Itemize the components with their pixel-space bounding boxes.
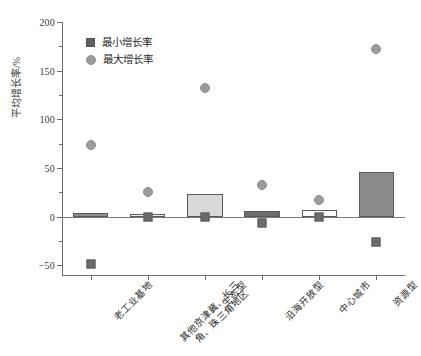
legend-item-max: 最大增长率 bbox=[86, 51, 153, 68]
bar bbox=[359, 172, 394, 217]
x-tick-label-group: 老工业基地其他京津冀、长三角、珠三角地区生态型沿海开放型中心城市资源型 bbox=[62, 275, 405, 356]
y-tick-label: 150 bbox=[0, 65, 55, 76]
y-tick-major bbox=[57, 22, 62, 23]
legend-label-min: 最小增长率 bbox=[102, 34, 152, 51]
max-growth-marker bbox=[257, 180, 267, 190]
bar bbox=[244, 211, 279, 217]
y-tick-major bbox=[57, 71, 62, 72]
y-tick-label: −50 bbox=[0, 260, 55, 271]
x-tick-label: 中心城市 bbox=[337, 279, 374, 316]
y-tick-minor bbox=[59, 95, 62, 96]
x-tick-label: 老工业基地 bbox=[111, 279, 155, 323]
bar bbox=[73, 213, 108, 217]
y-axis-line bbox=[62, 22, 63, 275]
y-tick-major bbox=[57, 168, 62, 169]
min-growth-marker bbox=[143, 212, 152, 221]
y-tick-major bbox=[57, 265, 62, 266]
y-tick-minor bbox=[59, 46, 62, 47]
x-tick-label: 沿海开放型 bbox=[283, 279, 327, 323]
min-growth-marker bbox=[200, 212, 209, 221]
min-growth-marker bbox=[372, 237, 381, 246]
y-tick-label: 0 bbox=[0, 211, 55, 222]
min-growth-marker bbox=[86, 260, 95, 269]
max-growth-marker bbox=[314, 195, 324, 205]
y-tick-label: 50 bbox=[0, 162, 55, 173]
legend-label-max: 最大增长率 bbox=[103, 51, 153, 68]
max-growth-marker bbox=[371, 44, 381, 54]
min-growth-marker bbox=[315, 212, 324, 221]
y-tick-minor bbox=[59, 192, 62, 193]
y-tick-label: 100 bbox=[0, 114, 55, 125]
square-marker-icon bbox=[86, 38, 95, 47]
max-growth-marker bbox=[200, 83, 210, 93]
y-tick-minor bbox=[59, 144, 62, 145]
max-growth-marker bbox=[86, 140, 96, 150]
max-growth-marker bbox=[143, 187, 153, 197]
x-tick-label: 资源型 bbox=[391, 279, 421, 309]
y-tick-label: 200 bbox=[0, 17, 55, 28]
chart-legend: 最小增长率 最大增长率 bbox=[86, 34, 153, 68]
y-tick-minor bbox=[59, 241, 62, 242]
circle-marker-icon bbox=[86, 55, 96, 65]
y-tick-major bbox=[57, 119, 62, 120]
legend-item-min: 最小增长率 bbox=[86, 34, 153, 51]
zero-line bbox=[62, 217, 405, 218]
min-growth-marker bbox=[258, 219, 267, 228]
